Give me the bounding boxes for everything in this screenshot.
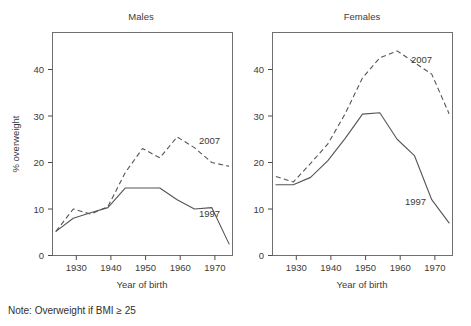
- x-axis-males: 1930 1940 1950 1960 1970: [66, 256, 226, 274]
- y-tick-label-30: 30: [33, 111, 44, 122]
- y-tick-label-20: 20: [253, 157, 264, 168]
- panel-females: Females 0 10 20 30 40 1930 1940 1950 196…: [253, 11, 452, 290]
- series-label-females-2007: 2007: [411, 54, 432, 65]
- series-label-males-1997: 1997: [199, 208, 220, 219]
- y-tick-label-10: 10: [33, 204, 44, 215]
- x-tick-label-1940: 1940: [320, 262, 341, 273]
- y-axis-title-males: % overweight: [10, 115, 21, 172]
- panel-males: Males 0 10 20 30 40 % overweight 1930 19…: [10, 11, 233, 290]
- footnote-note: Note: Overweight if BMI ≥ 25: [8, 305, 136, 316]
- y-tick-label-40: 40: [253, 64, 264, 75]
- x-tick-label-1960: 1960: [170, 262, 191, 273]
- y-tick-label-10: 10: [253, 204, 264, 215]
- x-tick-label-1970: 1970: [424, 262, 445, 273]
- y-tick-label-20: 20: [33, 157, 44, 168]
- x-tick-label-1950: 1950: [355, 262, 376, 273]
- y-tick-label-40: 40: [33, 64, 44, 75]
- series-label-males-2007: 2007: [199, 135, 220, 146]
- y-tick-label-30: 30: [253, 111, 264, 122]
- x-axis-title-females: Year of birth: [337, 279, 388, 290]
- x-axis-title-males: Year of birth: [117, 279, 168, 290]
- y-tick-label-0: 0: [39, 250, 44, 261]
- y-axis-females: 0 10 20 30 40: [253, 64, 272, 261]
- x-axis-females: 1930 1940 1950 1960 1970: [286, 256, 446, 274]
- x-tick-label-1940: 1940: [100, 262, 121, 273]
- y-tick-label-0: 0: [259, 250, 264, 261]
- series-line-females-2007: [276, 51, 449, 182]
- y-axis-males: 0 10 20 30 40: [33, 64, 52, 261]
- plot-frame-females: [273, 33, 453, 256]
- panel-title-males: Males: [128, 11, 154, 22]
- x-tick-label-1930: 1930: [66, 262, 87, 273]
- panel-title-females: Females: [344, 11, 381, 22]
- x-tick-label-1970: 1970: [204, 262, 225, 273]
- series-label-females-1997: 1997: [405, 196, 426, 207]
- x-tick-label-1930: 1930: [286, 262, 307, 273]
- x-tick-label-1960: 1960: [390, 262, 411, 273]
- x-tick-label-1950: 1950: [135, 262, 156, 273]
- figure-overweight-by-birth-year: Males 0 10 20 30 40 % overweight 1930 19…: [0, 0, 471, 326]
